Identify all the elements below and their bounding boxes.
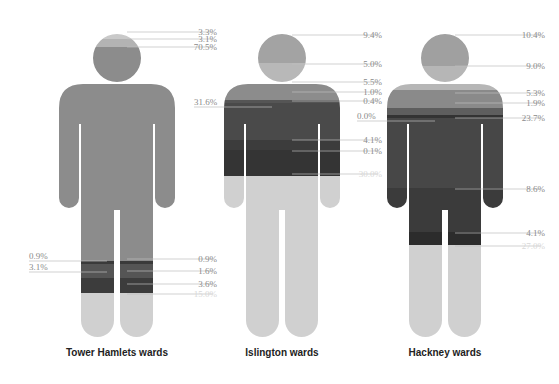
figure-band (47, 261, 187, 264)
figure-band (375, 232, 515, 245)
caption-tower-hamlets: Tower Hamlets wards (37, 347, 197, 358)
percentage-label: 0.4% (363, 96, 382, 106)
figure-band (375, 188, 515, 232)
percentage-label: 0.0% (357, 111, 376, 121)
percentage-label: 15.0% (194, 289, 218, 299)
percentage-label: 5.5% (363, 77, 382, 87)
percentage-label: 0.9% (198, 254, 217, 264)
percentage-label: 5.0% (363, 59, 382, 69)
figure-band (47, 278, 187, 293)
figure-band (375, 66, 515, 90)
percentage-label: 70.5% (194, 42, 218, 52)
caption-hackney: Hackney wards (365, 347, 525, 358)
percentage-label: 30.0% (359, 169, 383, 179)
figure-band (375, 118, 515, 188)
caption-islington: Islington wards (202, 347, 362, 358)
percentage-label: 8.6% (526, 184, 545, 194)
percentage-label: 23.7% (522, 113, 546, 123)
figure-band (212, 103, 352, 140)
percentage-label: 1.9% (526, 98, 545, 108)
figure-band (375, 245, 515, 340)
percentage-label: 27.0% (522, 241, 546, 251)
percentage-label: 3.1% (29, 262, 48, 272)
percentage-label: 0.1% (363, 146, 382, 156)
figure-band (375, 34, 515, 66)
percentage-label: 4.1% (526, 228, 545, 238)
figure-band (212, 63, 352, 84)
infographic: 3.3%3.1%70.5%0.9%1.6%3.6%15.0%0.9%3.1%9.… (0, 0, 559, 384)
pictogram-chart: 3.3%3.1%70.5%0.9%1.6%3.6%15.0%0.9%3.1%9.… (0, 0, 559, 384)
figure-band (212, 176, 352, 340)
percentage-label: 9.4% (363, 30, 382, 40)
percentage-label: 5.3% (526, 88, 545, 98)
figure-band (47, 293, 187, 340)
percentage-label: 9.0% (526, 61, 545, 71)
figure-band (47, 34, 187, 39)
figure-band (375, 108, 515, 115)
figure-band (212, 34, 352, 63)
percentage-label: 31.6% (194, 97, 218, 107)
figure-band (212, 140, 352, 150)
figure-band (375, 115, 515, 118)
percentage-label: 1.6% (198, 266, 217, 276)
person-figure (375, 34, 515, 340)
figure-band (47, 47, 187, 261)
percentage-label: 0.9% (29, 251, 48, 261)
figure-band (212, 150, 352, 176)
percentage-label: 3.6% (198, 279, 217, 289)
percentage-label: 10.4% (522, 30, 546, 40)
figure-band (47, 39, 187, 47)
figure-band (212, 100, 352, 103)
person-figure (212, 34, 352, 340)
percentage-label: 4.1% (363, 135, 382, 145)
